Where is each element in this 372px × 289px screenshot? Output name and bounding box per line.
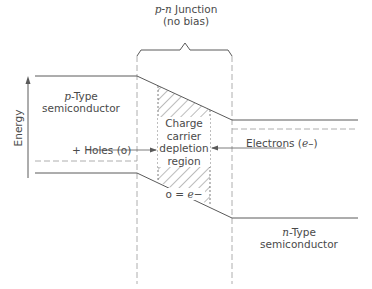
electrons-label: Electrons (e–) xyxy=(246,137,318,149)
energy-axis-arrow-icon xyxy=(26,76,31,84)
title-pn: p-n xyxy=(155,3,172,15)
title-no-bias: (no bias) xyxy=(136,15,236,27)
p-type-label: p-Type semiconductor xyxy=(36,90,126,114)
junction-bracket xyxy=(137,43,232,56)
depletion-region-label: Charge carrier depletion region xyxy=(158,117,210,167)
electrons-arrowhead-icon xyxy=(211,146,218,151)
junction-title: p-n Junction (no bias) xyxy=(136,3,236,27)
holes-arrowhead-icon xyxy=(150,148,157,153)
n-type-label: n-Type semiconductor xyxy=(244,226,354,250)
holes-label: + Holes (o) xyxy=(72,144,131,156)
hole-electron-equation: o = e− xyxy=(163,188,205,200)
title-junction: Junction xyxy=(172,3,218,15)
energy-axis-label: Energy xyxy=(12,108,24,148)
